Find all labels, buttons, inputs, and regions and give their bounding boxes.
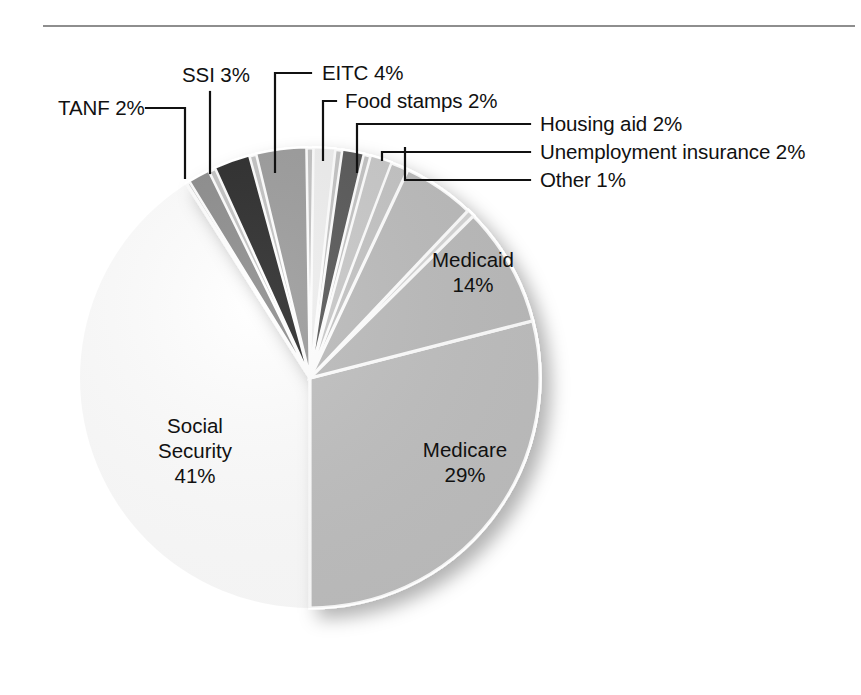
callout-label-eitc: EITC 4%: [322, 62, 403, 85]
slice-label-medicaid: Medicaid 14%: [398, 247, 548, 297]
slice-label-medicaid-value: 14%: [398, 272, 548, 297]
slice-label-medicare: Medicare 29%: [390, 437, 540, 487]
callout-label-ssi: SSI 3%: [182, 64, 250, 87]
slice-label-social-security-line1: Social: [115, 413, 275, 438]
callout-label-other: Other 1%: [540, 169, 626, 192]
slice-label-medicare-name: Medicare: [390, 437, 540, 462]
slice-label-social-security: Social Security 41%: [115, 413, 275, 488]
slice-label-medicare-value: 29%: [390, 462, 540, 487]
callout-label-food-stamps: Food stamps 2%: [345, 90, 497, 113]
slice-label-social-security-line2: Security: [115, 438, 275, 463]
leader-line-tanf: [146, 108, 185, 178]
callout-label-tanf: TANF 2%: [58, 97, 145, 120]
callout-label-housing-aid: Housing aid 2%: [540, 113, 682, 136]
callout-label-unemployment-insurance: Unemployment insurance 2%: [540, 141, 805, 164]
chart-canvas: TANF 2% SSI 3% EITC 4% Food stamps 2% Ho…: [0, 0, 861, 695]
slice-label-medicaid-name: Medicaid: [398, 247, 548, 272]
slice-label-social-security-value: 41%: [115, 463, 275, 488]
